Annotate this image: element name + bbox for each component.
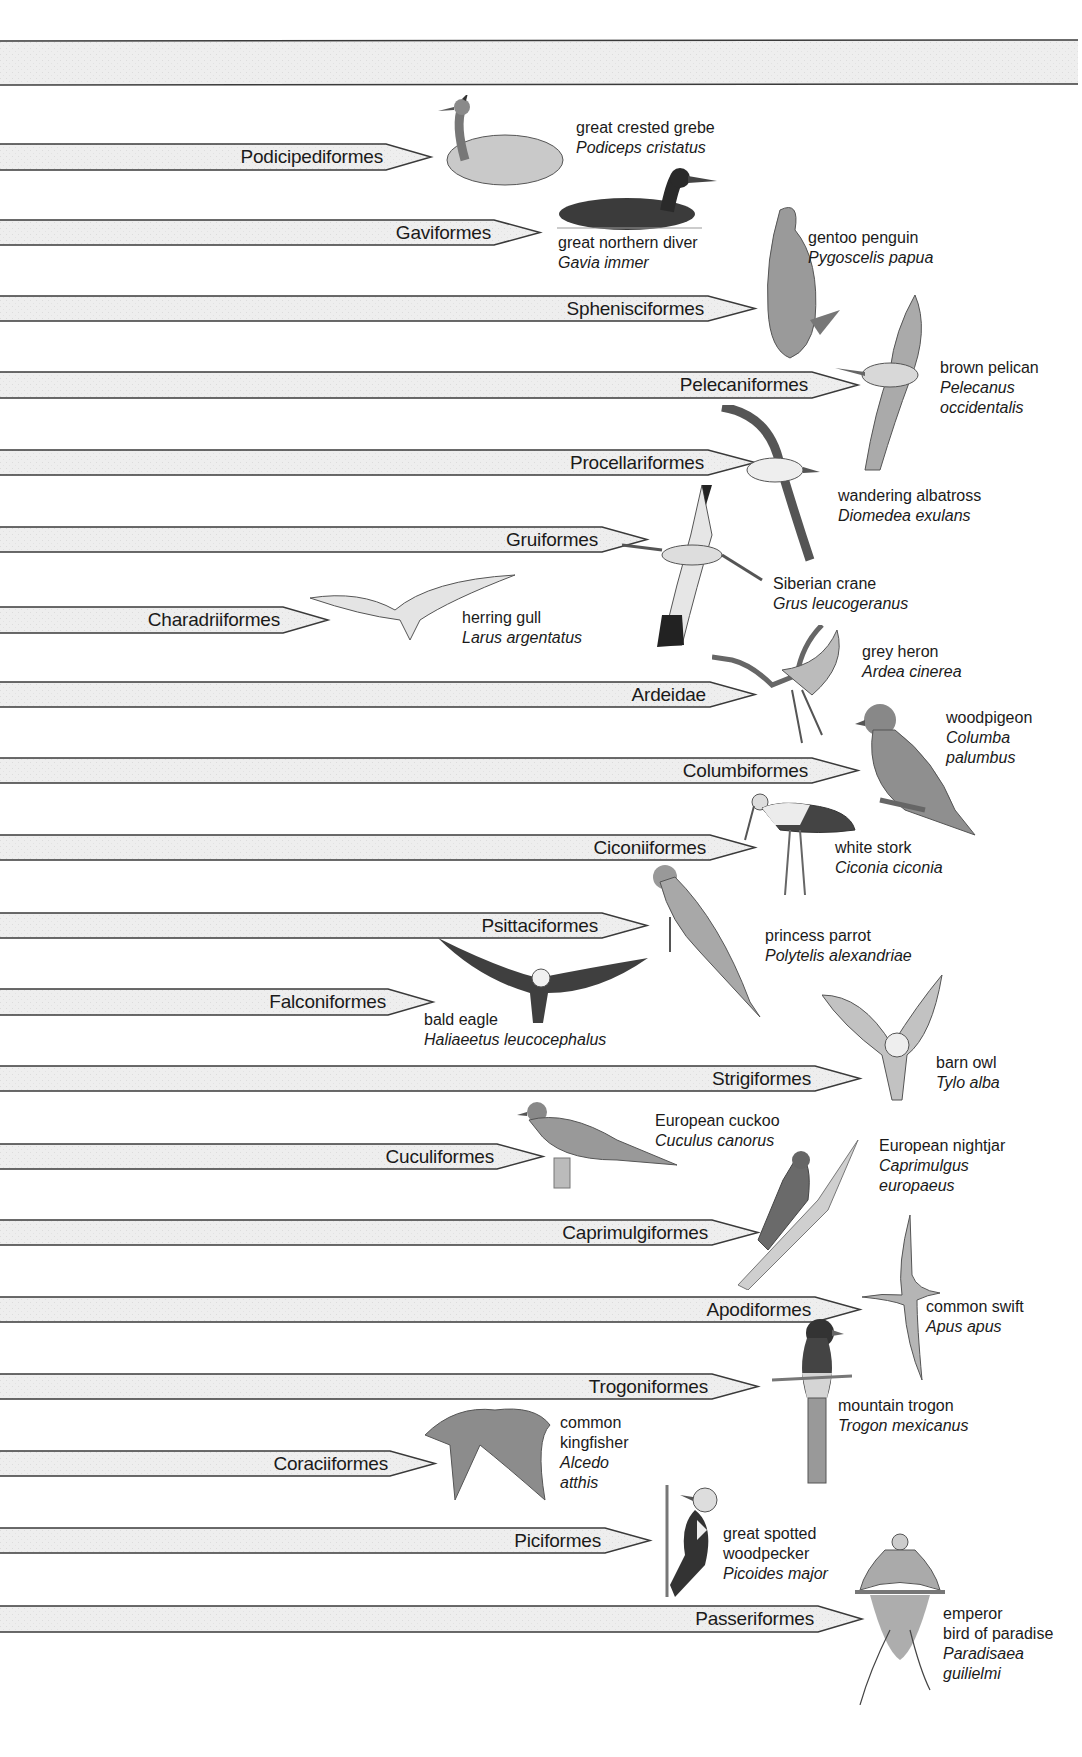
order-label-apodiformes: Apodiformes (707, 1300, 811, 1319)
species-label-great-crested-grebe: great crested grebe Podiceps cristatus (576, 118, 715, 158)
order-label-cuculiformes: Cuculiformes (386, 1147, 494, 1166)
order-label-trogoniformes: Trogoniformes (589, 1377, 708, 1396)
species-label-common-kingfisher: common kingfisher Alcedo atthis (560, 1413, 628, 1493)
species-label-bald-eagle: bald eagle Haliaeetus leucocephalus (424, 1010, 606, 1050)
european-nightjar-illustration (728, 1140, 868, 1290)
order-label-passeriformes: Passeriformes (695, 1609, 814, 1628)
species-label-siberian-crane: Siberian crane Grus leucogeranus (773, 574, 908, 614)
common-kingfisher-illustration (425, 1405, 555, 1505)
species-label-gentoo-penguin: gentoo penguin Pygoscelis papua (808, 228, 933, 268)
order-label-psittaciformes: Psittaciformes (481, 916, 598, 935)
species-label-grey-heron: grey heron Ardea cinerea (862, 642, 962, 682)
order-label-ciconiiformes: Ciconiiformes (594, 838, 707, 857)
species-label-barn-owl: barn owl Tylo alba (936, 1053, 1000, 1093)
species-label-white-stork: white stork Ciconia ciconia (835, 838, 943, 878)
order-label-caprimulgiformes: Caprimulgiformes (562, 1223, 708, 1242)
species-label-european-cuckoo: European cuckoo Cuculus canorus (655, 1111, 780, 1151)
species-label-brown-pelican: brown pelican Pelecanus occidentalis (940, 358, 1039, 418)
emperor-bird-of-paradise-illustration (850, 1530, 950, 1705)
species-label-mountain-trogon: mountain trogon Trogon mexicanus (838, 1396, 968, 1436)
species-label-herring-gull: herring gull Larus argentatus (462, 608, 582, 648)
species-label-common-swift: common swift Apus apus (926, 1297, 1024, 1337)
species-label-great-northern-diver: great northern diver Gavia immer (558, 233, 698, 273)
order-label-falconiformes: Falconiformes (269, 992, 386, 1011)
species-label-great-spotted-woodpecker: great spotted woodpecker Picoides major (723, 1524, 828, 1584)
order-label-ardeidae: Ardeidae (632, 685, 706, 704)
species-label-wandering-albatross: wandering albatross Diomedea exulans (838, 486, 981, 526)
order-label-gruiformes: Gruiformes (506, 530, 598, 549)
order-label-piciformes: Piciformes (514, 1531, 601, 1550)
order-label-strigiformes: Strigiformes (712, 1069, 811, 1088)
species-label-woodpigeon: woodpigeon Columba palumbus (946, 708, 1032, 768)
order-label-pelecaniformes: Pelecaniformes (680, 375, 808, 394)
great-crested-grebe-illustration (410, 95, 570, 190)
order-label-charadriiformes: Charadriiformes (148, 610, 280, 629)
order-label-procellariformes: Procellariformes (570, 453, 704, 472)
great-northern-diver-illustration (552, 166, 722, 236)
species-label-emperor-bird-of-paradise: emperor bird of paradise Paradisaea guil… (943, 1604, 1053, 1684)
root-band (0, 40, 1078, 85)
brown-pelican-illustration (835, 290, 935, 475)
barn-owl-illustration (822, 975, 947, 1105)
princess-parrot-illustration (650, 862, 770, 1022)
order-label-gaviformes: Gaviformes (396, 223, 491, 242)
bird-orders-diagram: Podicipediformes Gaviformes Spheniscifor… (0, 0, 1082, 1757)
order-label-coraciiformes: Coraciiformes (273, 1454, 388, 1473)
order-label-columbiformes: Columbiformes (683, 761, 808, 780)
order-label-sphenisciformes: Sphenisciformes (567, 299, 704, 318)
species-label-european-nightjar: European nightjar Caprimulgus europaeus (879, 1136, 1005, 1196)
grey-heron-illustration (712, 625, 862, 745)
species-label-princess-parrot: princess parrot Polytelis alexandriae (765, 926, 912, 966)
order-label-podicipediformes: Podicipediformes (240, 147, 383, 166)
